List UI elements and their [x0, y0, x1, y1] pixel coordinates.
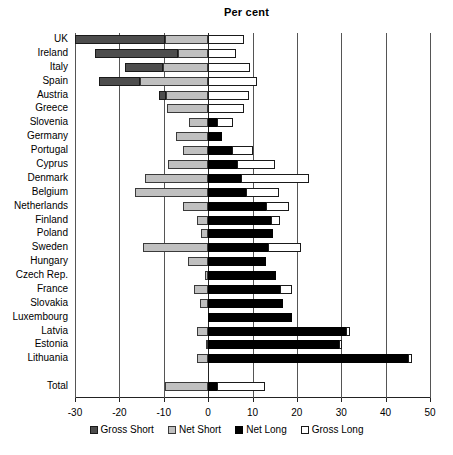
bar-row: Belgium — [75, 186, 430, 200]
bar-row: Ireland — [75, 47, 430, 61]
segment-gross-long — [217, 118, 233, 127]
bar-row: Poland — [75, 227, 430, 241]
segment-net-short — [183, 146, 208, 155]
category-label: Slovenia — [30, 115, 68, 129]
bar-row: Estonia — [75, 338, 430, 352]
segment-gross-short — [159, 91, 166, 100]
legend-label: Gross Long — [312, 424, 364, 435]
legend-swatch-net-long-icon — [235, 426, 243, 434]
category-label: Total — [47, 379, 68, 393]
segment-net-short — [165, 382, 208, 391]
legend-swatch-gross-short-icon — [90, 426, 98, 434]
segment-net-long — [208, 257, 266, 266]
tick-mark--20 — [119, 398, 120, 402]
legend-item-gross-short: Gross Short — [90, 424, 154, 435]
segment-gross-long — [208, 77, 257, 86]
segment-net-short — [178, 49, 208, 58]
category-label: Greece — [35, 101, 68, 115]
segment-net-long — [208, 160, 237, 169]
tick-mark-30 — [341, 398, 342, 402]
category-label: Slovakia — [30, 296, 68, 310]
bar-row: Austria — [75, 89, 430, 103]
tick-mark-40 — [386, 398, 387, 402]
tick-mark--10 — [164, 398, 165, 402]
legend-item-gross-long: Gross Long — [301, 424, 364, 435]
tick-label-10: 10 — [247, 407, 258, 418]
gridline-50 — [430, 33, 431, 398]
segment-net-long — [208, 327, 346, 336]
tick-label-50: 50 — [424, 407, 435, 418]
bar-row: Germany — [75, 130, 430, 144]
segment-net-short — [163, 63, 208, 72]
chart-legend: Gross ShortNet ShortNet LongGross Long — [0, 424, 453, 435]
bar-row: Denmark — [75, 172, 430, 186]
segment-net-short — [189, 118, 209, 127]
segment-net-long — [208, 243, 267, 252]
segment-net-short — [167, 104, 208, 113]
segment-net-short — [140, 77, 208, 86]
category-label: Latvia — [41, 324, 68, 338]
bar-row: Latvia — [75, 325, 430, 339]
segment-net-long — [208, 216, 271, 225]
segment-gross-short — [75, 35, 165, 44]
category-label: Hungary — [30, 254, 68, 268]
segment-gross-long — [237, 160, 275, 169]
bar-row: Hungary — [75, 255, 430, 269]
category-label: Finland — [35, 213, 68, 227]
segment-net-long — [208, 118, 217, 127]
segment-net-long — [208, 285, 280, 294]
tick-label--10: -10 — [157, 407, 171, 418]
segment-net-short — [197, 327, 209, 336]
segment-net-short — [201, 229, 208, 238]
segment-net-short — [194, 285, 208, 294]
bar-row: Finland — [75, 214, 430, 228]
segment-gross-short — [95, 49, 178, 58]
category-label: Poland — [37, 226, 68, 240]
segment-gross-long — [217, 382, 265, 391]
bar-row: Cyprus — [75, 158, 430, 172]
segment-gross-long — [271, 216, 280, 225]
legend-item-net-short: Net Short — [168, 424, 221, 435]
category-label: France — [37, 282, 68, 296]
category-label: Czech Rep. — [16, 268, 68, 282]
category-label: Estonia — [35, 337, 68, 351]
segment-gross-long — [241, 174, 309, 183]
segment-net-long — [208, 146, 232, 155]
category-label: Belgium — [32, 185, 68, 199]
bar-row: Netherlands — [75, 200, 430, 214]
segment-net-long — [208, 174, 240, 183]
bar-row: Total — [75, 380, 430, 394]
plot-area: UKIrelandItalySpainAustriaGreeceSlovenia… — [75, 33, 430, 398]
bar-row: Czech Rep. — [75, 269, 430, 283]
segment-net-long — [208, 354, 408, 363]
tick-mark-10 — [253, 398, 254, 402]
legend-label: Net Short — [179, 424, 221, 435]
segment-net-long — [208, 340, 339, 349]
chart-title: Per cent — [0, 6, 453, 18]
segment-net-long — [208, 313, 291, 322]
bar-row-spacer — [75, 366, 430, 380]
bar-row: Spain — [75, 75, 430, 89]
segment-net-short — [143, 243, 208, 252]
segment-gross-long — [208, 35, 244, 44]
legend-swatch-net-short-icon — [168, 426, 176, 434]
legend-swatch-gross-long-icon — [301, 426, 309, 434]
segment-net-long — [208, 188, 246, 197]
segment-gross-short — [99, 77, 140, 86]
category-label: Cyprus — [36, 157, 68, 171]
segment-net-short — [165, 35, 208, 44]
tick-mark-50 — [430, 398, 431, 402]
legend-label: Net Long — [246, 424, 287, 435]
segment-net-long — [208, 229, 273, 238]
tick-mark-0 — [208, 398, 209, 402]
segment-net-short — [197, 354, 208, 363]
tick-mark-20 — [297, 398, 298, 402]
segment-net-short — [183, 202, 208, 211]
chart-title-text: Per cent — [224, 6, 269, 18]
tick-label-40: 40 — [380, 407, 391, 418]
chart-root: Per cent UKIrelandItalySpainAustriaGreec… — [0, 0, 453, 455]
category-label: Sweden — [32, 240, 68, 254]
category-label: Ireland — [37, 46, 68, 60]
category-label: Portugal — [31, 143, 68, 157]
segment-net-short — [135, 188, 208, 197]
